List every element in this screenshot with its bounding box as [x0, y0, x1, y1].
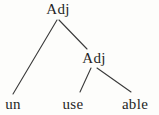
- leaf-node-un: un: [5, 97, 21, 112]
- leaf-node-use: use: [63, 97, 84, 112]
- edge-root-to-inner-adj: [59, 20, 87, 49]
- inner-node-label: Adj: [82, 51, 105, 66]
- morphology-tree-diagram: Adj Adj un use able: [0, 0, 159, 115]
- leaf-node-able: able: [122, 97, 148, 112]
- edge-root-to-un: [13, 20, 57, 94]
- root-node-label: Adj: [46, 2, 69, 17]
- edge-inner-adj-to-able: [97, 68, 131, 92]
- edge-inner-adj-to-use: [80, 68, 91, 92]
